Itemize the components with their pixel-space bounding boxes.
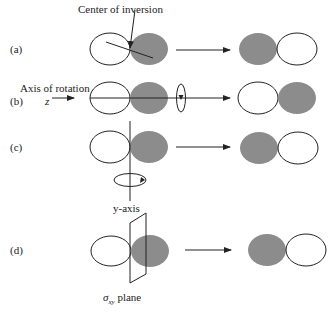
row-d-graphics: [91, 213, 326, 283]
center-of-inversion-label: Center of inversion: [78, 4, 163, 15]
row-a-right-white-lobe: [277, 33, 317, 65]
diagram-graphics: [0, 0, 336, 314]
row-a-left-white-lobe: [90, 33, 130, 65]
row-d-right-gray-lobe: [248, 234, 286, 266]
axis-of-rotation-label: Axis of rotation: [20, 83, 90, 94]
row-b-label: (b): [10, 96, 23, 107]
row-a-right-gray-lobe: [239, 33, 277, 65]
row-b-right-gray-lobe: [278, 82, 316, 114]
row-b-right-white-lobe: [238, 82, 278, 114]
row-c-right-white-lobe: [278, 132, 318, 164]
plane-word: plane: [115, 291, 142, 303]
row-d-left-white-lobe: [91, 236, 131, 266]
rotation-loop-y-arrowhead: [140, 177, 145, 183]
symmetry-operations-diagram: Center of inversion (a) Axis of rotation…: [0, 0, 336, 314]
row-c-right-gray-lobe: [240, 132, 278, 164]
row-c-graphics: [90, 121, 318, 201]
row-a-graphics: [90, 10, 317, 65]
row-c-left-white-lobe: [90, 131, 130, 163]
row-d-label: (d): [10, 245, 23, 256]
row-c-label: (c): [10, 142, 22, 153]
row-a-left-gray-lobe: [130, 33, 168, 65]
sigma-xy-plane-label: σxy plane: [103, 292, 141, 306]
row-c-left-gray-lobe: [130, 131, 168, 163]
z-axis-label: z: [45, 96, 49, 107]
row-a-label: (a): [10, 44, 22, 55]
y-axis-label: y-axis: [113, 203, 140, 214]
row-d-left-gray-lobe: [131, 235, 169, 267]
row-d-right-white-lobe: [286, 234, 326, 266]
row-b-graphics: [52, 82, 316, 114]
